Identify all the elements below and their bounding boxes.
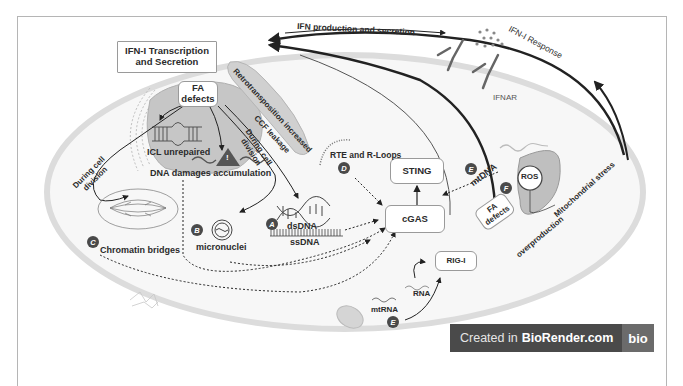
- micronuclei-icon: [212, 220, 232, 240]
- badge-a: A: [266, 218, 278, 230]
- warning-exclamation: !: [226, 154, 229, 163]
- badge-e-mtrna: E: [387, 316, 399, 328]
- watermark-brand: BioRender.com: [522, 331, 614, 345]
- icl-unrepaired-label: ICL unrepaired: [147, 148, 210, 158]
- badge-f: F: [500, 182, 512, 194]
- ssdna-label: ssDNA: [290, 238, 320, 248]
- sting-box: STING: [390, 158, 444, 184]
- badge-c: C: [87, 236, 99, 248]
- fa-defects-nucleus-box: FA defects: [178, 81, 218, 107]
- watermark-prefix: Created in: [460, 331, 518, 345]
- badge-b: B: [191, 224, 203, 236]
- badge-e-mtdna: E: [465, 163, 477, 175]
- ifn-transcription-line-2: and Secretion: [136, 57, 199, 68]
- rig-i-box: RIG-I: [435, 251, 477, 271]
- dna-damages-label: DNA damages accumulation: [150, 169, 271, 179]
- fa-defects-line-2: defects: [181, 94, 214, 105]
- watermark-text: Created in BioRender.com: [450, 324, 622, 352]
- biorender-logo-icon: bio: [622, 324, 654, 352]
- micronuclei-label: micronuclei: [196, 243, 247, 253]
- biorender-watermark: Created in BioRender.com bio: [450, 324, 654, 352]
- badge-d: D: [338, 162, 350, 174]
- mtrna-label: mtRNA: [371, 306, 398, 315]
- rna-label: RNA: [413, 290, 430, 299]
- rte-rloops-label: RTE and R-Loops: [330, 151, 401, 160]
- dsdna-label: dsDNA: [287, 222, 317, 232]
- ros-label: ROS: [521, 173, 538, 182]
- chromatin-bridges-label: Chromatin bridges: [100, 246, 180, 256]
- cgas-box: cGAS: [385, 205, 445, 233]
- ifn-transcription-box: IFN-I Transcription and Secretion: [117, 41, 217, 73]
- ifnar-label: IFNAR: [493, 94, 517, 103]
